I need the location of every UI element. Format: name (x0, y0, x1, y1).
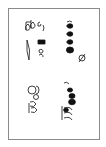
music-notation (0, 0, 106, 147)
rest-icon (38, 40, 45, 57)
clef-like-icon (28, 86, 39, 113)
note-run-upper (66, 21, 74, 53)
note-run-lower (62, 82, 75, 120)
accidental-icon (79, 54, 85, 62)
